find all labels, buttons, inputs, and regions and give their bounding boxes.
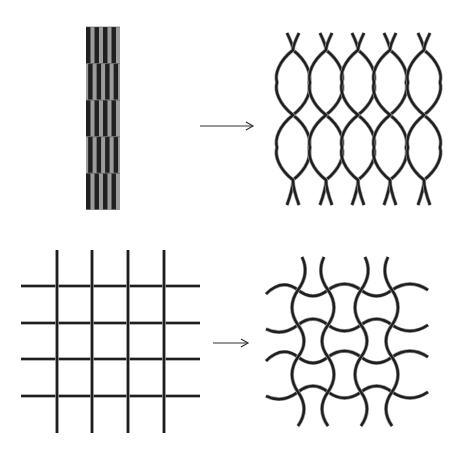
mesh-diagram: [0, 0, 461, 460]
slit-sheet-strip: [86, 27, 120, 210]
square-grid: [21, 250, 200, 433]
wavy-interlocking-mesh: [266, 257, 428, 426]
expanded-diamond-mesh: [276, 33, 440, 205]
